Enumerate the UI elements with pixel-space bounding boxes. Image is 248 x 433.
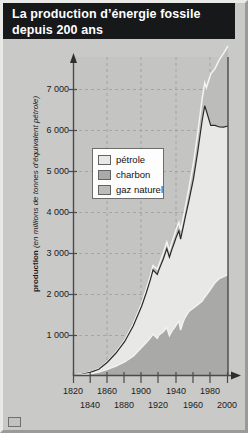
x-tick-labels: 1820 1860 1900 1940 1980 1840 1880 1920 … (3, 39, 245, 430)
x-tick-label: 1900 (123, 387, 159, 396)
legend-item-petrole: pétrole (98, 153, 163, 167)
legend-label-charbon: charbon (116, 170, 150, 180)
x-tick-label: 1880 (106, 401, 142, 410)
page-title: La production d’énergie fossile depuis 2… (12, 6, 234, 38)
legend-swatch-gaz-naturel (98, 185, 111, 195)
chart-legend: pétrole charbon gaz naturel (92, 148, 164, 199)
x-tick-label: 1860 (89, 387, 125, 396)
legend-swatch-petrole (98, 155, 111, 165)
legend-label-gaz-naturel: gaz naturel (116, 185, 163, 195)
title-bar: La production d’énergie fossile depuis 2… (3, 3, 235, 39)
legend-swatch-charbon (98, 170, 111, 180)
legend-item-charbon: charbon (98, 168, 163, 182)
x-tick-label: 1960 (175, 401, 211, 410)
x-tick-label: 2000 (209, 401, 245, 410)
figure-root: La production d’énergie fossile depuis 2… (0, 0, 248, 433)
corner-square-marker (8, 417, 21, 427)
x-tick-label: 1920 (140, 401, 176, 410)
x-tick-label: 1840 (72, 401, 108, 410)
legend-label-petrole: pétrole (116, 155, 145, 165)
x-tick-label: 1820 (55, 387, 91, 396)
x-tick-label: 1940 (158, 387, 194, 396)
chart-area: production (en millions de tonnes d’équi… (3, 39, 245, 430)
x-tick-label: 1980 (192, 387, 228, 396)
legend-item-gaz-naturel: gaz naturel (98, 183, 163, 197)
